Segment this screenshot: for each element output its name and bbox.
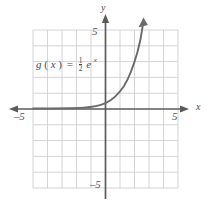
graph-canvas: [0, 0, 212, 209]
exponential-function-graph-figure: –5 5 5 –5 x y g ( x ) = 1 2 e x: [0, 0, 212, 209]
x-axis-label: x: [196, 101, 200, 112]
function-equation-annotation: g ( x ) = 1 2 e x: [36, 57, 97, 74]
equation-function-name: g: [36, 58, 42, 70]
equation-argument: x: [51, 58, 56, 70]
y-axis-up-arrowhead: [102, 14, 109, 23]
x-axis-right-arrowhead: [180, 105, 189, 112]
y-axis-max-tick-label: 5: [92, 25, 97, 37]
x-axis-min-tick-label: –5: [14, 110, 25, 122]
equation-close-paren: ): [58, 58, 62, 70]
equation-base: e: [86, 58, 91, 70]
y-axis-min-tick-label: –5: [90, 178, 101, 190]
curve-arrowhead: [139, 18, 148, 28]
equation-coefficient-fraction: 1 2: [79, 57, 83, 74]
y-axis: [102, 14, 109, 199]
y-axis-label: y: [101, 2, 105, 13]
equation-open-paren: (: [44, 58, 48, 70]
equation-coefficient-numerator: 1: [79, 57, 83, 65]
equation-coefficient-denominator: 2: [79, 64, 83, 73]
x-axis-max-tick-label: 5: [172, 110, 177, 122]
equation-exponent: x: [94, 56, 97, 64]
equation-equals-sign: =: [67, 58, 73, 70]
